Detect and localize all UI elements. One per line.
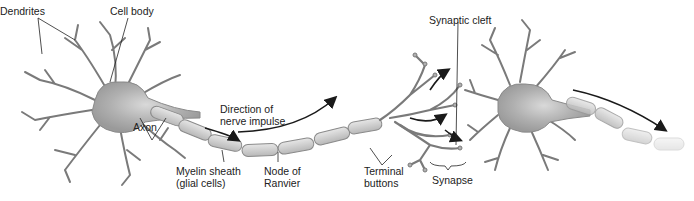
label-myelin-line1: Myelin sheath <box>176 165 241 177</box>
label-terminal-buttons: Terminal buttons <box>364 165 404 189</box>
label-dendrites: Dendrites <box>0 5 45 17</box>
neuron-diagram <box>0 0 694 201</box>
label-node-line1: Node of <box>264 165 301 177</box>
label-synapse: Synapse <box>432 174 473 186</box>
label-axon: Axon <box>133 121 157 133</box>
label-direction-of-impulse: Direction of nerve impulse <box>220 103 285 127</box>
axon-terminals <box>380 55 460 170</box>
label-terminal-line1: Terminal <box>364 165 404 177</box>
label-direction-line1: Direction of <box>220 103 285 115</box>
label-synaptic-cleft: Synaptic cleft <box>429 14 491 26</box>
label-myelin-sheath: Myelin sheath (glial cells) <box>176 165 241 189</box>
label-myelin-line2: (glial cells) <box>176 177 241 189</box>
label-node-of-ranvier: Node of Ranvier <box>264 165 301 189</box>
label-direction-line2: nerve impulse <box>220 115 285 127</box>
label-node-line2: Ranvier <box>264 177 301 189</box>
label-terminal-line2: buttons <box>364 177 404 189</box>
right-myelin-sheath <box>565 96 684 150</box>
label-cell-body: Cell body <box>110 5 154 17</box>
